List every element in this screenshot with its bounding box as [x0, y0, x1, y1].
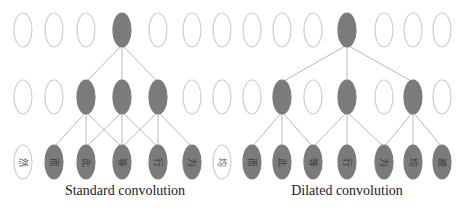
dilated-middle-node	[375, 80, 393, 114]
dilated-top-node	[273, 13, 291, 47]
standard-top-node	[14, 13, 32, 47]
node-label: 而	[49, 158, 59, 167]
dilated-middle-node	[433, 80, 451, 114]
edge	[54, 112, 86, 147]
dilated-middle-node	[404, 80, 422, 114]
dilated-top-node	[243, 13, 261, 47]
edge	[384, 112, 413, 147]
dilated-middle-node	[243, 80, 261, 114]
standard-middle-node	[77, 80, 95, 114]
edge	[347, 112, 384, 147]
node-label: 然	[18, 158, 29, 167]
convolution-diagram: 然而此等行为均而此等行为均被	[0, 0, 467, 209]
edge	[158, 112, 192, 147]
nodes: 然而此等行为均而此等行为均被	[14, 13, 451, 179]
node-label: 为	[379, 158, 390, 167]
edge	[282, 45, 347, 82]
edge	[347, 45, 413, 82]
standard-middle-node	[113, 80, 131, 114]
edge	[122, 45, 158, 82]
node-label: 均	[217, 158, 228, 167]
dilated-top-node	[375, 13, 393, 47]
node-label: 行	[153, 158, 164, 167]
dilated-top-node	[338, 13, 356, 47]
standard-middle-node	[213, 80, 231, 114]
node-label: 被	[437, 158, 448, 167]
node-label: 为	[187, 158, 198, 167]
standard-middle-node	[14, 80, 32, 114]
dilated-middle-node	[273, 80, 291, 114]
standard-middle-node	[45, 80, 63, 114]
dilated-top-node	[404, 13, 422, 47]
node-label: 而	[247, 158, 257, 167]
standard-top-node	[77, 13, 95, 47]
standard-top-node	[213, 13, 231, 47]
node-label: 等	[117, 158, 128, 167]
standard-top-node	[113, 13, 131, 47]
node-label: 等	[308, 158, 319, 167]
edge	[413, 112, 442, 147]
edge	[252, 112, 282, 147]
standard-top-node	[45, 13, 63, 47]
dilated-middle-node	[304, 80, 322, 114]
dilated-top-node	[304, 13, 322, 47]
caption-dilated-convolution: Dilated convolution	[291, 183, 403, 199]
caption-standard-convolution: Standard convolution	[65, 183, 185, 199]
edge	[282, 112, 313, 147]
node-label: 行	[342, 158, 353, 167]
node-label: 此	[81, 158, 92, 167]
standard-top-node	[183, 13, 201, 47]
edge	[86, 45, 122, 82]
edge	[313, 112, 347, 147]
standard-top-node	[149, 13, 167, 47]
standard-middle-node	[149, 80, 167, 114]
node-label: 均	[408, 158, 419, 167]
dilated-middle-node	[338, 80, 356, 114]
dilated-top-node	[433, 13, 451, 47]
node-label: 此	[277, 158, 288, 167]
standard-middle-node	[183, 80, 201, 114]
